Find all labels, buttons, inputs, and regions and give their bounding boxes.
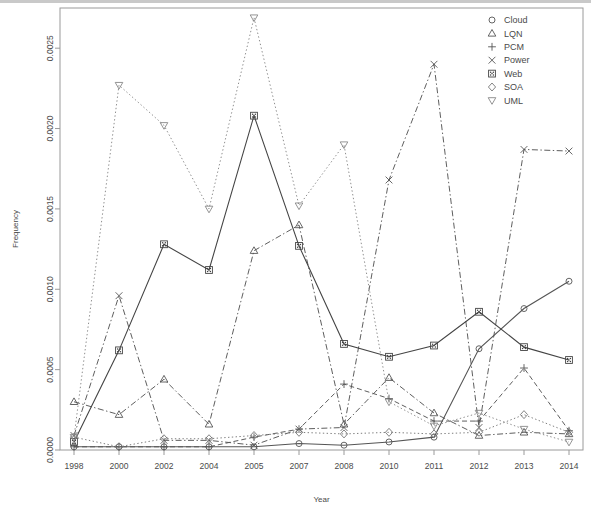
square-marker-dot [297, 244, 299, 246]
square-marker-dot [525, 348, 527, 350]
square-marker-dot [342, 342, 344, 344]
series-path [74, 415, 569, 447]
series-web [71, 112, 573, 445]
legend-item-cloud[interactable]: Cloud [489, 15, 528, 25]
y-tick-label: 0.0000 [45, 437, 55, 463]
legend-item-web[interactable]: Web [489, 69, 523, 79]
x-tick-label: 2005 [245, 461, 264, 471]
square-marker-dot [567, 361, 569, 363]
square-marker-dot [300, 247, 302, 249]
square-marker-dot [210, 268, 212, 270]
square-marker-dot [432, 343, 434, 345]
series-path [74, 64, 569, 445]
square-marker-dot [252, 114, 254, 116]
square-marker-dot [165, 242, 167, 244]
square-marker-dot [118, 350, 120, 352]
legend-item-pcm[interactable]: PCM [488, 42, 524, 52]
series-power [71, 61, 573, 449]
square-marker-dot [162, 242, 164, 244]
square-marker-dot [493, 71, 495, 73]
y-tick-label: 0.0010 [45, 276, 55, 302]
square-marker-dot [478, 311, 480, 313]
x-tick-label: 1998 [65, 461, 84, 471]
cross-marker-icon [489, 57, 496, 64]
x-tick-label: 2011 [425, 461, 444, 471]
square-marker-dot [345, 345, 347, 347]
square-marker-dot [255, 116, 257, 118]
chart-root: 0.00000.00050.00100.00150.00200.0025Freq… [0, 0, 591, 523]
legend-item-soa[interactable]: SOA [488, 82, 523, 92]
data-point-marker [115, 411, 123, 418]
square-marker-dot [165, 245, 167, 247]
y-tick-label: 0.0025 [45, 35, 55, 61]
square-marker-dot [208, 269, 210, 271]
data-point-marker [160, 123, 168, 130]
square-marker-dot [570, 361, 572, 363]
square-marker-dot [490, 74, 492, 76]
series-path [74, 368, 569, 447]
square-marker-dot [343, 343, 345, 345]
legend-item-power[interactable]: Power [489, 55, 530, 65]
x-tick-label: 2002 [155, 461, 174, 471]
square-marker-dot [390, 357, 392, 359]
square-marker-dot [210, 271, 212, 273]
square-marker-dot [477, 312, 479, 314]
square-marker-dot [300, 244, 302, 246]
square-marker-dot [435, 346, 437, 348]
square-marker-dot [567, 358, 569, 360]
square-marker-dot [342, 345, 344, 347]
square-marker-dot [435, 343, 437, 345]
square-marker-dot [390, 355, 392, 357]
series-lqn [70, 221, 573, 438]
square-marker-dot [117, 351, 119, 353]
square-marker-dot [120, 351, 122, 353]
circle-marker-icon [489, 17, 495, 23]
square-marker-dot [433, 345, 435, 347]
square-marker-dot [255, 114, 257, 116]
square-marker-dot [525, 345, 527, 347]
data-point-marker [488, 98, 496, 105]
data-point-marker [520, 411, 527, 419]
data-point-marker [565, 439, 573, 446]
data-point-marker [70, 398, 78, 405]
square-marker-dot [522, 348, 524, 350]
x-tick-label: 2008 [335, 461, 354, 471]
square-marker-dot [297, 247, 299, 249]
square-marker-dot [432, 346, 434, 348]
legend-label: Power [504, 55, 530, 65]
legend-label: UML [504, 96, 523, 106]
legend-item-uml[interactable]: UML [488, 96, 523, 106]
legend-label: LQN [504, 29, 523, 39]
series-path [74, 281, 569, 447]
square-marker-dot [493, 74, 495, 76]
triangle-down-marker-icon [488, 98, 496, 105]
x-tick-label: 2013 [515, 461, 534, 471]
square-marker-dot [75, 443, 77, 445]
chart-legend: CloudLQNPCMPowerWebSOAUML [488, 15, 529, 105]
square-marker-dot [298, 245, 300, 247]
series-path [74, 18, 569, 442]
square-marker-dot [477, 310, 479, 312]
plus-marker-icon [488, 43, 496, 51]
data-point-marker [250, 247, 258, 254]
square-marker-dot [570, 358, 572, 360]
x-tick-label: 2007 [290, 461, 309, 471]
y-tick-label: 0.0015 [45, 196, 55, 222]
triangle-up-marker-icon [488, 30, 496, 37]
square-marker-dot [162, 245, 164, 247]
square-marker-dot [117, 348, 119, 350]
series-cloud [71, 278, 572, 450]
data-point-marker [489, 17, 495, 23]
series-pcm [70, 364, 573, 451]
square-marker-dot [120, 348, 122, 350]
data-point-marker [488, 83, 495, 91]
data-point-marker [520, 428, 528, 435]
legend-item-lqn[interactable]: LQN [488, 29, 522, 39]
square-marker-icon [489, 70, 496, 77]
series-path [74, 116, 569, 442]
square-marker-dot [163, 244, 165, 246]
square-marker-dot [253, 115, 255, 117]
diamond-marker-icon [488, 83, 495, 91]
square-marker-dot [523, 346, 525, 348]
x-tick-label: 2010 [380, 461, 399, 471]
